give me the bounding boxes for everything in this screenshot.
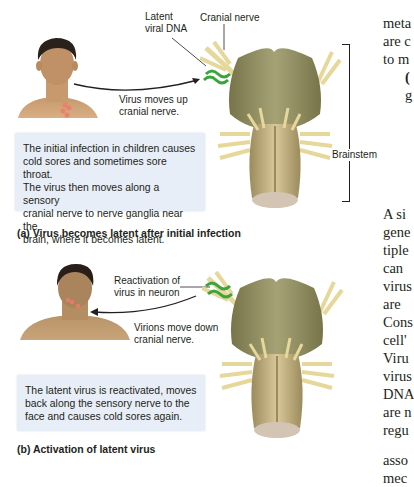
description-box-b: The latent virus is reactivated, moves b… (17, 375, 205, 431)
label-brainstem: Brainstem (330, 149, 379, 161)
body-text-line: Cons (383, 313, 414, 331)
body-text-line: meta (383, 14, 412, 32)
paragraph-gap (383, 439, 414, 451)
body-text-line: mec (383, 469, 414, 487)
label-line: cranial nerve. (119, 106, 188, 118)
body-text-line: A si (383, 205, 414, 223)
brainstem-illustration-b (202, 268, 347, 440)
body-text-line: ( (383, 68, 412, 86)
body-text-line: DNA (383, 385, 414, 403)
label-line: Virus moves up (119, 94, 188, 106)
body-text-line: are n (383, 403, 414, 421)
label-latent-viral-dna: Latent viral DNA (145, 11, 187, 34)
description-line: The virus then moves along a sensory (23, 181, 197, 207)
label-line: Latent (145, 11, 187, 23)
body-text-line: are (383, 295, 414, 313)
body-text-line: virus (383, 277, 414, 295)
body-text-line: gene (383, 223, 414, 241)
description-line: back along the sensory nerve to the (25, 397, 197, 410)
caption-a: (a) Virus becomes latent after initial i… (17, 227, 241, 239)
body-text-line: g (383, 86, 412, 104)
brainstem-bracket (342, 44, 350, 202)
description-box-a: The initial infection in children causes… (15, 133, 205, 211)
description-line: The latent virus is reactivated, moves (25, 384, 197, 397)
body-text-line: virus (383, 367, 414, 385)
description-line: face and causes cold sores again. (25, 410, 197, 423)
label-virus-moves-up: Virus moves up cranial nerve. (119, 94, 188, 117)
label-cranial-nerve: Cranial nerve (200, 12, 259, 24)
body-text-line: can (383, 259, 414, 277)
body-text-line: Viru (383, 349, 414, 367)
label-line: Reactivation of (114, 275, 180, 287)
body-text-line: cell' (383, 331, 414, 349)
arrow-virions-move-down (88, 292, 200, 322)
description-line: cold sores and sometimes sore throat. (23, 155, 197, 181)
brainstem-illustration-a (200, 38, 345, 210)
caption-b: (b) Activation of latent virus (17, 443, 155, 455)
body-text-line: to m (383, 50, 412, 68)
body-text-line: regu (383, 421, 414, 439)
label-line: viral DNA (145, 23, 187, 35)
body-text-line: are c (383, 32, 412, 50)
body-text-top: meta are c to m ( g (383, 14, 412, 104)
body-text-line: tiple (383, 241, 414, 259)
description-line: The initial infection in children causes (23, 142, 197, 155)
body-text-line: asso (383, 451, 414, 469)
body-text-bottom: A si gene tiple can virus are Cons cell'… (383, 205, 414, 487)
